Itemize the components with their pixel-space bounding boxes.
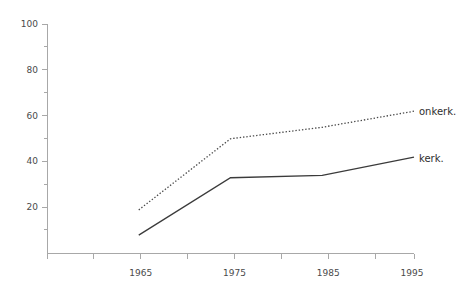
y-axis-label-100: 100 [21, 19, 38, 29]
y-axis: 100 80 60 40 20 [21, 19, 47, 254]
chart-legend: onkerk. kerk. [419, 106, 456, 164]
x-axis-label-1965: 1965 [129, 268, 152, 278]
series-line-kerkelijk [139, 157, 414, 235]
series-group [139, 111, 414, 235]
y-axis-label-40: 40 [27, 156, 39, 166]
y-axis-label-60: 60 [27, 111, 39, 121]
series-line-onkerkelijk [139, 111, 414, 210]
x-axis-label-1975: 1975 [223, 268, 246, 278]
x-axis-label-1985: 1985 [317, 268, 340, 278]
series-label-onkerkelijk: onkerk. [419, 106, 456, 117]
y-axis-label-80: 80 [27, 65, 39, 75]
line-chart: 100 80 60 40 20 1965 1975 1985 1995 [0, 0, 475, 295]
chart-svg: 100 80 60 40 20 1965 1975 1985 1995 [0, 0, 475, 295]
x-axis-label-1995: 1995 [401, 268, 424, 278]
y-axis-label-20: 20 [27, 202, 39, 212]
x-axis: 1965 1975 1985 1995 [47, 254, 423, 279]
series-label-kerkelijk: kerk. [419, 153, 444, 164]
